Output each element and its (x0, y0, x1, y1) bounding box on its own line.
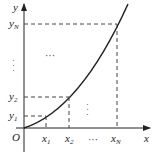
ellipsis-vertical-region: ··· (86, 102, 90, 117)
y-axis-label: y (13, 2, 18, 13)
ellipsis-y-axis: ··· (12, 58, 16, 73)
ellipsis-middle: ··· (45, 51, 55, 61)
y-tick-2: y2 (9, 91, 17, 104)
x-axis-label: x (144, 133, 149, 144)
diagram-canvas (0, 0, 155, 158)
x-tick-N: xN (111, 133, 121, 146)
y-tick-N: yN (9, 18, 19, 31)
y-tick-1: y1 (9, 110, 17, 123)
origin-label: O (12, 132, 20, 143)
x-tick-2: x2 (65, 133, 73, 146)
x-tick-1: x1 (42, 133, 50, 146)
curve (24, 4, 128, 128)
ellipsis-x-axis: ··· (88, 135, 98, 145)
